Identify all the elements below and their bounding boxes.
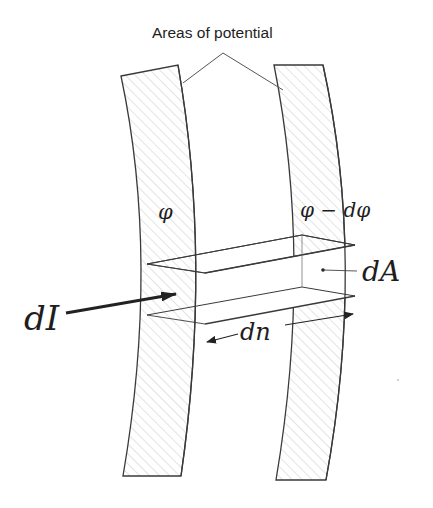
phi-label: φ (158, 200, 173, 224)
stray-dot (397, 379, 399, 381)
phi-minus-dphi-label: φ − dφ (300, 198, 370, 222)
dA-label: dA (362, 255, 400, 288)
dI-label: dI (24, 298, 59, 338)
dn-label: dn (240, 318, 271, 346)
left-potential-strip (121, 65, 196, 476)
diagram-canvas: Areas of potential φ φ − dφ dA dI dn (0, 0, 433, 508)
label-leader-lines (183, 53, 283, 90)
areas-of-potential-label: Areas of potential (152, 24, 273, 42)
diagram-drawing (0, 0, 433, 508)
